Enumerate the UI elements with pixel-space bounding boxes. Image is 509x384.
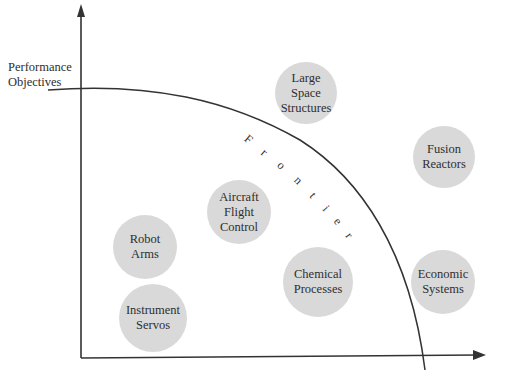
bubble-instrument-servos: Instrument Servos <box>119 284 187 352</box>
y-axis-label: Performance Objectives <box>8 60 72 90</box>
bubble-aircraft-flight-control: Aircraft Flight Control <box>207 180 271 244</box>
bubble-chemical-processes: Chemical Processes <box>283 247 353 317</box>
y-axis-arrow-icon <box>77 4 85 17</box>
bubble-economic-systems: Economic Systems <box>411 250 475 314</box>
bubble-fusion-reactors: Fusion Reactors <box>413 126 475 188</box>
bubble-robot-arms: Robot Arms <box>113 215 177 279</box>
x-axis <box>81 355 478 358</box>
bubble-large-space-structures: Large Space Structures <box>275 62 337 124</box>
x-axis-arrow-icon <box>473 350 486 360</box>
